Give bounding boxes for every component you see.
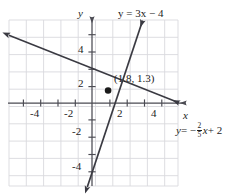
axes bbox=[8, 17, 186, 186]
equation-label-line2: y= −25x+ 2 bbox=[176, 122, 222, 139]
y-tick-label--4: -4 bbox=[72, 161, 81, 172]
x-tick-label-4: 4 bbox=[151, 108, 157, 119]
y-tick-label-4: 4 bbox=[78, 44, 84, 55]
graph-figure: y x -4 -2 2 4 4 2 -2 -4 y = 3x − 4 (1.8,… bbox=[0, 0, 250, 194]
x-tick-label--4: -4 bbox=[30, 108, 39, 119]
line2-fraction-numerator: 2 bbox=[197, 122, 203, 130]
line-y-neg-two-fifths-x-plus-2 bbox=[9, 35, 179, 103]
coordinate-plane-svg bbox=[0, 0, 250, 194]
y-tick-label-2: 2 bbox=[78, 78, 84, 89]
x-tick-label--2: -2 bbox=[64, 108, 73, 119]
y-tick-label--2: -2 bbox=[72, 126, 81, 137]
line2-fraction: 25 bbox=[197, 122, 203, 139]
x-axis-label: x bbox=[183, 110, 188, 121]
line2-tail: + 2 bbox=[208, 124, 222, 136]
y-axis-label: y bbox=[78, 8, 83, 19]
equation-label-line1: y = 3x − 4 bbox=[118, 8, 163, 19]
line2-fraction-denominator: 5 bbox=[197, 130, 203, 139]
line2-equals-minus: = − bbox=[181, 124, 196, 136]
intersection-point-dot bbox=[105, 87, 112, 94]
intersection-point-label: (1.8, 1.3) bbox=[114, 73, 154, 84]
x-tick-label-2: 2 bbox=[117, 108, 123, 119]
